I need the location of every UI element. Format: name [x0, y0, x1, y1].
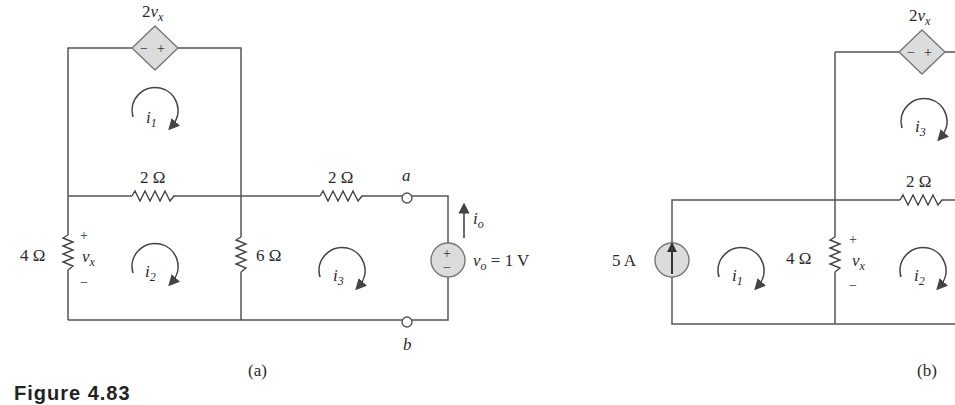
independent-voltage-source-a: + − vo = 1 V — [431, 243, 530, 277]
mesh-current-i2-b: i2 — [900, 247, 946, 288]
output-current-io: io — [464, 208, 484, 238]
resistor-label: 4 Ω — [20, 246, 45, 265]
plus-sign: + — [80, 228, 88, 243]
plus-sign: + — [443, 246, 451, 261]
mesh-label: i3 — [915, 117, 926, 139]
vo-label: vo = 1 V — [473, 251, 530, 273]
current-source-5a: 5 A — [612, 242, 689, 277]
terminal-b: b — [402, 317, 412, 354]
mesh-label: i1 — [146, 108, 157, 130]
circuit-b: − + 2vx 5 A 2 Ω 4 Ω + vx − — [612, 6, 955, 380]
minus-sign: − — [443, 260, 451, 275]
subfigure-label-b: (b) — [917, 361, 937, 380]
resistor-2ohm-b: 2 Ω — [900, 172, 945, 205]
resistor-label: 6 Ω — [256, 246, 281, 265]
dependent-source-label: 2vx — [909, 6, 931, 28]
mesh-current-i2-a: i2 — [132, 243, 178, 284]
current-source-label: 5 A — [612, 251, 637, 270]
source-minus-sign: − — [140, 41, 148, 56]
source-plus-sign: + — [157, 41, 165, 56]
mesh-label: i3 — [333, 266, 344, 288]
vx-text: vx — [852, 251, 866, 273]
dependent-voltage-source-b: − + 2vx — [899, 6, 945, 74]
terminal-label: b — [403, 335, 412, 354]
terminal-a: a — [402, 166, 412, 203]
mesh-label: i2 — [914, 266, 925, 288]
source-minus-sign: − — [907, 45, 915, 60]
mesh-current-i3-b: i3 — [901, 98, 947, 139]
mesh-current-i1-a: i1 — [132, 87, 178, 130]
mesh-current-i3-a: i3 — [319, 247, 365, 288]
resistor-4ohm-a: 4 Ω — [20, 235, 73, 270]
resistor-4ohm-b: 4 Ω — [786, 237, 840, 272]
dependent-voltage-source-a: − + 2vx — [132, 2, 178, 70]
vx-label-a: + vx − — [80, 228, 96, 290]
vx-text: vx — [82, 247, 96, 269]
subfigure-label-a: (a) — [248, 361, 267, 380]
mesh-current-i1-b: i1 — [718, 247, 764, 288]
dependent-source-label: 2vx — [142, 2, 164, 24]
terminal-label: a — [402, 166, 411, 185]
minus-sign: − — [849, 278, 857, 293]
circuit-a: − + 2vx 2 Ω 2 Ω 4 Ω + vx − 6 Ω — [20, 2, 530, 380]
figure-caption: Figure 4.83 — [14, 382, 131, 405]
plus-sign: + — [849, 232, 857, 247]
resistor-6ohm-a: 6 Ω — [236, 237, 281, 272]
source-plus-sign: + — [924, 45, 932, 60]
minus-sign: − — [80, 275, 88, 290]
resistor-2ohm-a-right: 2 Ω — [320, 168, 364, 201]
resistor-label: 2 Ω — [140, 168, 165, 187]
resistor-label: 2 Ω — [906, 172, 931, 191]
resistor-2ohm-a-left: 2 Ω — [132, 168, 176, 201]
mesh-label: i2 — [145, 262, 156, 284]
io-label: io — [473, 209, 484, 231]
resistor-label: 2 Ω — [328, 168, 353, 187]
vx-label-b: + vx − — [849, 232, 866, 293]
circuit-a-wires — [68, 48, 448, 320]
resistor-label: 4 Ω — [786, 249, 811, 268]
mesh-label: i1 — [732, 266, 743, 288]
